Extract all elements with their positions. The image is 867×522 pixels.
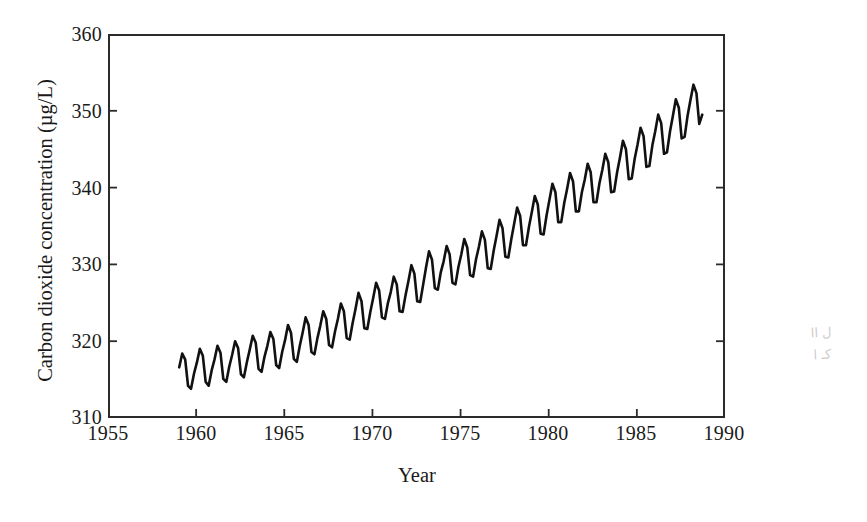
scan-showthrough-artifact: ل اا كـ ا [792,321,853,376]
x-tick-label-1955: 1955 [73,422,143,444]
x-tick-label-1965: 1965 [249,422,319,444]
x-axis-tick-labels: 1955 1960 1965 1970 1975 1980 1985 1990 [0,422,867,452]
x-tick-label-1975: 1975 [425,422,495,444]
y-tick-label-330: 330 [56,254,102,274]
x-tick-label-1990: 1990 [689,422,759,444]
scan-showthrough-line-2: كـ ا [793,342,852,367]
x-tick-label-1980: 1980 [513,422,583,444]
x-tick-label-1970: 1970 [337,422,407,444]
y-tick-label-360: 360 [56,24,102,44]
y-tick-label-350: 350 [56,101,102,121]
y-axis-title-container: Carbon dioxide concentration (µg/L) [0,0,40,460]
x-tick-label-1960: 1960 [161,422,231,444]
y-tick-label-320: 320 [56,331,102,351]
co2-concentration-figure: Carbon dioxide concentration (µg/L) 360 … [0,0,867,522]
y-tick-label-340: 340 [56,178,102,198]
x-tick-label-1985: 1985 [601,422,671,444]
scan-showthrough-line-1: ل اا [792,321,851,346]
x-axis-title: Year [357,464,477,487]
plot-area-frame [108,34,725,418]
